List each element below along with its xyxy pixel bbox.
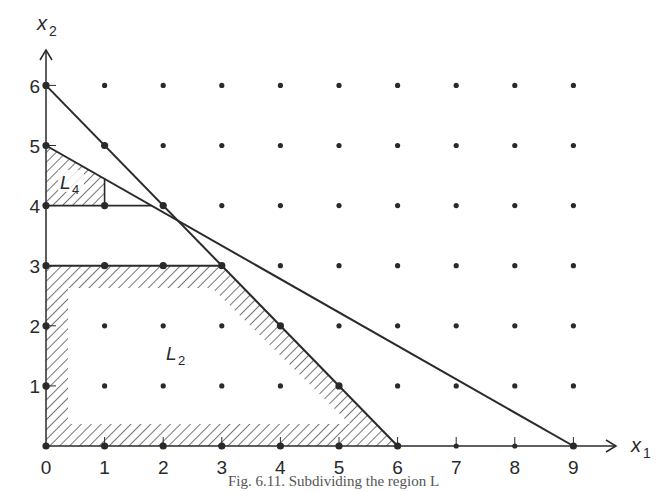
y-tick-label: 6 (29, 76, 40, 97)
lattice-point (219, 83, 224, 88)
lattice-point (454, 203, 459, 208)
region-l2-hatch (46, 266, 398, 446)
lattice-point (161, 143, 166, 148)
lattice-point (336, 83, 341, 88)
lattice-point (161, 323, 166, 328)
lattice-point (219, 323, 224, 328)
lattice-point (512, 383, 517, 388)
lattice-point (161, 383, 166, 388)
lattice-point (454, 143, 459, 148)
lattice-point (101, 442, 108, 449)
lattice-point (42, 202, 49, 209)
lattice-point (395, 383, 400, 388)
lattice-point (571, 383, 576, 388)
lattice-point (336, 263, 341, 268)
lattice-point (102, 383, 107, 388)
lattice-point (395, 203, 400, 208)
lattice-point (42, 262, 49, 269)
lattice-point (570, 442, 577, 449)
lattice-point (335, 382, 342, 389)
lattice-point (336, 143, 341, 148)
lattice-point (42, 442, 49, 449)
lattice-point (512, 443, 517, 448)
lattice-point (278, 263, 283, 268)
lattice-point (395, 323, 400, 328)
lattice-point (512, 323, 517, 328)
y-axis-title-text: x (36, 12, 48, 34)
lattice-point (219, 383, 224, 388)
lattice-point (454, 83, 459, 88)
x-axis-title-text: x (630, 434, 642, 456)
lattice-point (394, 442, 401, 449)
y-tick-labels: 1 2 3 4 5 6 (29, 76, 40, 397)
lattice-point (42, 322, 49, 329)
lattice-point (219, 143, 224, 148)
lattice-point (160, 202, 167, 209)
lattice-point (101, 202, 108, 209)
lattice-point (219, 203, 224, 208)
figure-caption: Fig. 6.11. Subdividing the region L (0, 474, 667, 489)
y-tick-label: 3 (29, 256, 40, 277)
lattice-point (277, 322, 284, 329)
region-l2-subscript: 2 (178, 353, 185, 368)
x-axis-title-subscript: 1 (643, 445, 651, 461)
constraint-lines (46, 85, 573, 446)
lattice-point (160, 262, 167, 269)
y-axis-title: x 2 (36, 12, 57, 39)
lattice-point (395, 263, 400, 268)
lattice-point (278, 83, 283, 88)
lattice-point (571, 323, 576, 328)
lattice-point (42, 82, 49, 89)
lattice-point (395, 83, 400, 88)
lattice-point (336, 203, 341, 208)
y-tick-label: 5 (29, 136, 40, 157)
lattice-point (161, 83, 166, 88)
lattice-point (102, 323, 107, 328)
line-5x1-plus-9x2-eq-45 (46, 146, 573, 447)
lattice-point (336, 323, 341, 328)
lattice-point (101, 142, 108, 149)
lattice-point (454, 263, 459, 268)
lattice-point (571, 263, 576, 268)
region-l2-name: L (166, 343, 177, 364)
lattice-point (454, 323, 459, 328)
lattice-point (278, 383, 283, 388)
lattice-point (218, 442, 225, 449)
lattice-point (42, 382, 49, 389)
lattice-point (278, 203, 283, 208)
y-tick-label: 1 (29, 376, 40, 397)
lattice-point (454, 443, 459, 448)
lattice-point (101, 262, 108, 269)
region-label-l2: L 2 (166, 343, 185, 368)
y-tick-label: 2 (29, 316, 40, 337)
lattice-point (571, 143, 576, 148)
lattice-point (512, 203, 517, 208)
lattice-point (571, 203, 576, 208)
x-axis-title: x 1 (630, 434, 651, 461)
lattice-point (395, 143, 400, 148)
lattice-point (571, 83, 576, 88)
lattice-point (278, 143, 283, 148)
y-axis-title-subscript: 2 (49, 23, 57, 39)
lattice-point (512, 263, 517, 268)
lattice-point (42, 142, 49, 149)
lattice-point (335, 442, 342, 449)
lattice-point (512, 143, 517, 148)
y-tick-label: 4 (29, 196, 40, 217)
lattice-point (454, 383, 459, 388)
lattice-point (218, 262, 225, 269)
lattice-point (102, 83, 107, 88)
region-l4-name: L (60, 172, 71, 193)
lattice-point (512, 83, 517, 88)
region-l4-subscript: 4 (72, 182, 79, 197)
lattice-point (277, 442, 284, 449)
lattice-point (160, 442, 167, 449)
